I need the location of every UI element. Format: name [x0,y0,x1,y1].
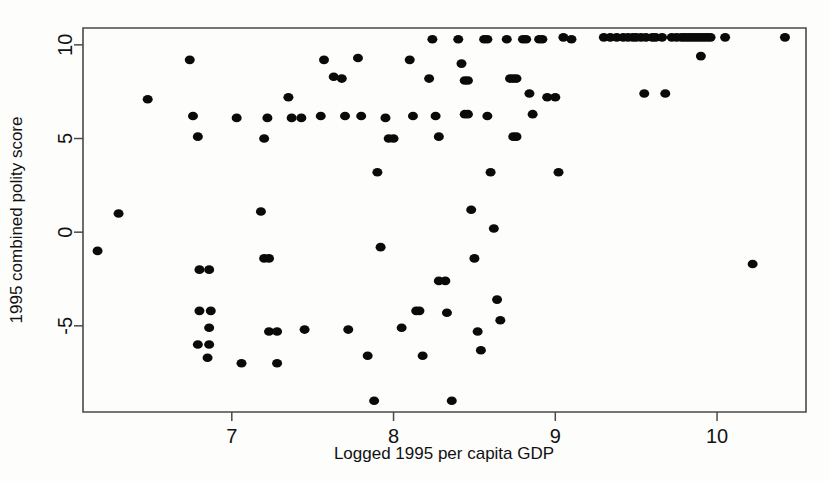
plot-frame [83,28,806,412]
data-point [482,112,492,121]
data-point [489,224,499,233]
data-point [660,89,670,98]
data-point [206,307,216,316]
data-point [442,308,452,317]
data-point [528,110,538,119]
data-point [143,95,153,104]
data-point [482,35,492,44]
data-point [319,56,329,65]
data-point [372,168,382,177]
data-point [272,327,282,336]
data-point [511,132,521,141]
data-point [300,325,310,334]
data-point [780,33,790,42]
y-tick-label: -5 [54,317,76,335]
data-point [185,56,195,65]
data-point [748,260,758,269]
data-point [193,132,203,141]
data-point [524,89,534,98]
data-point [283,93,293,102]
data-point [405,56,415,65]
data-point [447,396,457,405]
y-axis-title: 1995 combined polity score [7,117,26,324]
data-point [237,359,247,368]
data-point [639,89,649,98]
x-tick-label: 7 [226,425,237,447]
data-point [397,323,407,332]
data-point [114,209,124,218]
y-axis-ticks: -50510 [54,34,83,335]
data-point [287,114,297,123]
data-point [380,114,390,123]
data-point [431,112,441,121]
data-point [272,359,282,368]
data-point [706,33,716,42]
x-tick-label: 10 [706,425,728,447]
data-point [537,35,547,44]
data-point [232,114,242,123]
data-point [356,112,366,121]
data-point [550,93,560,102]
data-point [369,396,379,405]
data-point [353,54,363,63]
data-point [204,340,214,349]
data-point [554,168,564,177]
data-point [511,74,521,83]
data-point [363,352,373,361]
data-point [521,35,531,44]
data-point [316,112,326,121]
data-point [566,35,576,44]
data-point [463,76,473,85]
data-point [262,114,272,123]
data-point [495,316,505,325]
data-point [473,327,483,336]
data-point [466,205,476,214]
data-point [193,340,203,349]
data-point [264,254,274,263]
y-tick-label: 10 [54,34,76,56]
data-point [502,35,512,44]
data-point [204,265,214,274]
y-tick-label: 0 [54,227,76,238]
data-point [424,74,434,83]
data-point [476,346,486,355]
data-point [469,254,479,263]
x-axis-ticks: 78910 [226,412,728,447]
data-point [389,134,399,143]
data-point [194,307,204,316]
data-point [720,33,730,42]
data-point [204,323,214,332]
data-point [414,307,424,316]
data-point [194,265,204,274]
data-point [376,243,386,252]
data-point [340,112,350,121]
data-points-layer [93,33,790,405]
data-point [256,207,266,216]
data-point [427,35,437,44]
data-point [418,352,428,361]
data-point [657,33,667,42]
data-point [188,112,198,121]
data-point [93,247,103,256]
data-point [203,353,213,362]
data-point [259,134,269,143]
scatter-plot-figure: 78910 -50510 Logged 1995 per capita GDP … [0,0,829,481]
data-point [408,112,418,121]
data-point [456,59,466,68]
plot-canvas: 78910 -50510 Logged 1995 per capita GDP … [0,0,829,481]
data-point [696,52,706,61]
data-point [486,168,496,177]
data-point [343,325,353,334]
x-axis-title: Logged 1995 per capita GDP [334,444,554,463]
data-point [453,35,463,44]
y-tick-label: 5 [54,133,76,144]
data-point [434,132,444,141]
data-point [296,114,306,123]
data-point [440,277,450,286]
data-point [492,295,502,304]
data-point [463,110,473,119]
data-point [337,74,347,83]
